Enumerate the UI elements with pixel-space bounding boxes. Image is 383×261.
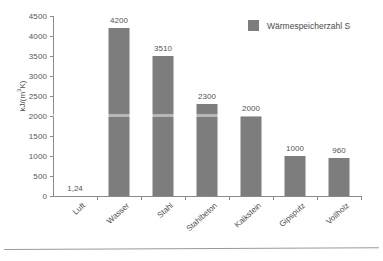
x-category-label: Stahlbeton bbox=[185, 201, 219, 233]
y-tick-label: 3000 bbox=[29, 72, 53, 81]
x-category-label: Vollholz bbox=[325, 201, 352, 226]
y-tick-label: 0 bbox=[42, 192, 53, 201]
y-tick-label: 2000 bbox=[29, 112, 53, 121]
bar-slot: 2300 bbox=[185, 16, 229, 196]
y-axis-title: kJ/(m3K) bbox=[16, 81, 27, 112]
y-tick-label: 2500 bbox=[29, 92, 53, 101]
bar-series: 1,2442003510230020001000960 bbox=[53, 16, 361, 196]
plot-area: 050010001500200025003000350040004500 1,2… bbox=[53, 16, 361, 196]
bar-stahl[interactable] bbox=[153, 56, 174, 196]
bar-slot: 960 bbox=[317, 16, 361, 196]
bar-value-label: 1000 bbox=[286, 144, 304, 153]
x-category-label: Stahl bbox=[155, 201, 175, 220]
bar-value-label: 2300 bbox=[198, 92, 216, 101]
y-tick-label: 500 bbox=[33, 172, 53, 181]
x-category-label: Kalkstein bbox=[233, 201, 263, 229]
bar-value-label: 960 bbox=[332, 146, 345, 155]
bar-gipsputz[interactable] bbox=[285, 156, 306, 196]
y-tick-label: 1500 bbox=[29, 132, 53, 141]
bar-slot: 1000 bbox=[273, 16, 317, 196]
bar-slot: 3510 bbox=[141, 16, 185, 196]
bar-slot: 4200 bbox=[97, 16, 141, 196]
bar-value-label: 1,24 bbox=[67, 184, 83, 193]
bar-wasser[interactable] bbox=[109, 28, 130, 196]
y-tick-label: 3500 bbox=[29, 52, 53, 61]
bar-slot: 1,24 bbox=[53, 16, 97, 196]
y-axis-title-tail: K) bbox=[18, 81, 27, 89]
y-tick-label: 4000 bbox=[29, 32, 53, 41]
y-axis-title-exponent: 3 bbox=[16, 89, 22, 92]
y-tick-label: 4500 bbox=[29, 12, 53, 21]
bar-chart: Wärmespeicherzahl S kJ/(m3K) 05001000150… bbox=[0, 0, 383, 261]
y-axis-title-main: kJ/(m bbox=[18, 92, 27, 112]
x-category-label: Gipsputz bbox=[278, 201, 307, 229]
bar-value-label: 2000 bbox=[242, 104, 260, 113]
x-category-label: Wasser bbox=[105, 201, 131, 226]
x-category-label: Luft bbox=[71, 201, 87, 217]
bar-stahlbeton[interactable] bbox=[197, 104, 218, 196]
bar-value-label: 4200 bbox=[110, 16, 128, 25]
bar-value-label: 3510 bbox=[154, 44, 172, 53]
bar-slot: 2000 bbox=[229, 16, 273, 196]
page-divider-rule bbox=[4, 247, 379, 250]
bar-vollholz[interactable] bbox=[329, 158, 350, 196]
y-tick-label: 1000 bbox=[29, 152, 53, 161]
